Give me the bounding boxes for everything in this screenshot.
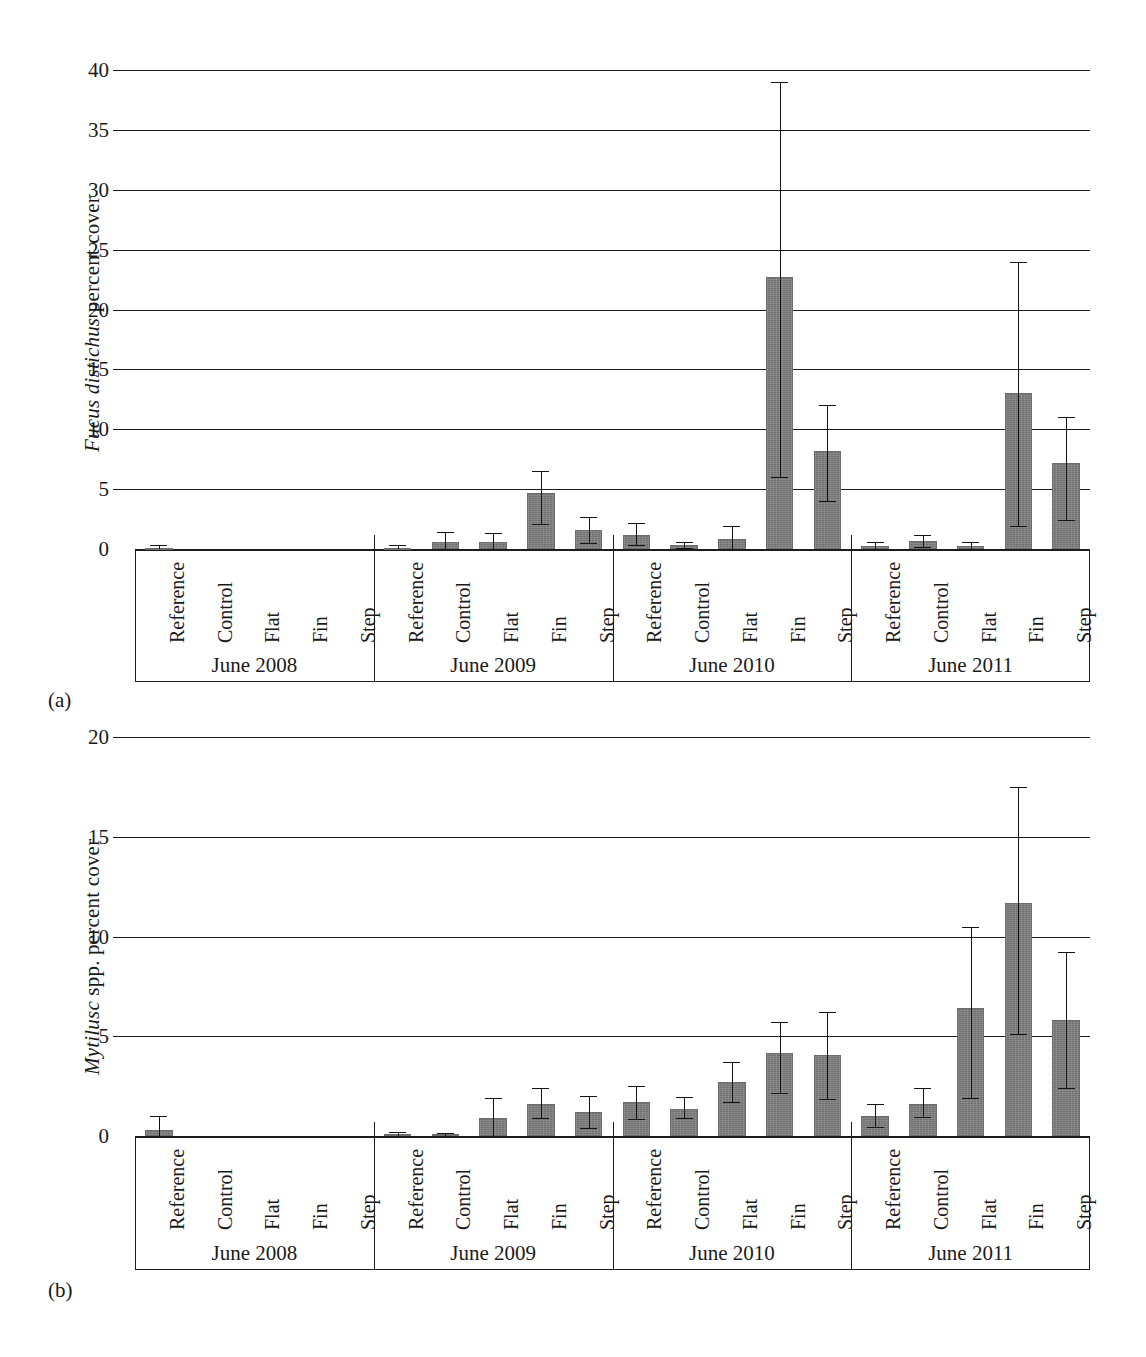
error-bar-cap-lower — [676, 548, 693, 549]
error-bar — [1018, 262, 1019, 527]
category-label: Step — [597, 1194, 617, 1230]
error-bar — [875, 1104, 876, 1127]
error-bar-cap-upper — [962, 542, 979, 543]
category-label: Reference — [167, 562, 187, 643]
error-bar-cap-upper — [867, 1104, 884, 1105]
gridline — [135, 130, 1090, 131]
category-label: Reference — [406, 562, 426, 643]
error-bar-cap-lower — [914, 547, 931, 548]
category-label: Reference — [883, 562, 903, 643]
category-label: Fin — [310, 1203, 330, 1230]
group-label: June 2008 — [135, 655, 374, 676]
group-separator-plot — [851, 1122, 852, 1136]
y-axis-tick-label: 10 — [59, 419, 109, 440]
error-bar-cap-upper — [532, 471, 549, 472]
y-axis-tick-label: 20 — [59, 299, 109, 320]
y-axis-tick-label: 10 — [59, 926, 109, 947]
error-bar — [589, 517, 590, 543]
gridline — [135, 310, 1090, 311]
gridline — [135, 489, 1090, 490]
gridline — [135, 369, 1090, 370]
group-separator-plot — [613, 1122, 614, 1136]
category-label: Reference — [406, 1149, 426, 1230]
category-label: Flat — [262, 1199, 282, 1230]
category-label: Reference — [644, 1149, 664, 1230]
category-label: Fin — [1026, 616, 1046, 643]
error-bar — [1066, 417, 1067, 520]
group-label: June 2010 — [613, 1243, 852, 1264]
error-bar-cap-lower — [914, 1117, 931, 1118]
category-label: Flat — [262, 612, 282, 643]
category-label: Flat — [501, 1199, 521, 1230]
error-bar-cap-upper — [437, 1133, 454, 1134]
gridline — [135, 250, 1090, 251]
gridline — [135, 429, 1090, 430]
category-label: Flat — [740, 612, 760, 643]
error-bar-cap-upper — [485, 533, 502, 534]
category-label: Fin — [1026, 1203, 1046, 1230]
category-label: Fin — [549, 616, 569, 643]
category-label: Step — [835, 1194, 855, 1230]
category-label: Control — [215, 1169, 235, 1230]
category-label: Reference — [883, 1149, 903, 1230]
error-bar-cap-lower — [1010, 1034, 1027, 1035]
category-label: Control — [692, 582, 712, 643]
y-axis-tick-label: 35 — [59, 119, 109, 140]
error-bar-cap-upper — [819, 1012, 836, 1013]
error-bar-cap-lower — [580, 1128, 597, 1129]
y-axis-tickmark — [113, 369, 135, 370]
error-bar — [875, 542, 876, 549]
error-bar-cap-upper — [819, 405, 836, 406]
y-axis-tickmark — [113, 250, 135, 251]
category-label: Fin — [310, 616, 330, 643]
category-label: Flat — [501, 612, 521, 643]
category-label: Step — [358, 1194, 378, 1230]
gridline — [135, 190, 1090, 191]
y-axis-tickmark — [113, 837, 135, 838]
y-axis-tickmark — [113, 130, 135, 131]
y-axis-tickmark — [113, 70, 135, 71]
error-bar-cap-upper — [150, 1116, 167, 1117]
error-bar-cap-lower — [771, 1093, 788, 1094]
error-bar-cap-upper — [485, 1098, 502, 1099]
error-bar-cap-lower — [1058, 520, 1075, 521]
category-label: Flat — [979, 1199, 999, 1230]
group-separator-plot — [613, 535, 614, 549]
error-bar — [541, 471, 542, 524]
category-label: Fin — [549, 1203, 569, 1230]
error-bar-cap-lower — [532, 1118, 549, 1119]
error-bar-cap-upper — [914, 1088, 931, 1089]
error-bar-cap-upper — [532, 1088, 549, 1089]
error-bar — [636, 1086, 637, 1119]
y-axis-tick-label: 15 — [59, 826, 109, 847]
error-bar-cap-upper — [437, 532, 454, 533]
error-bar — [732, 1062, 733, 1102]
error-bar-cap-upper — [676, 1097, 693, 1098]
error-bar — [827, 1012, 828, 1099]
error-bar-cap-lower — [867, 1127, 884, 1128]
error-bar-cap-lower — [771, 477, 788, 478]
error-bar-cap-lower — [962, 1098, 979, 1099]
group-label: June 2011 — [851, 1243, 1090, 1264]
error-bar-cap-upper — [676, 542, 693, 543]
error-bar-cap-upper — [771, 1022, 788, 1023]
category-label: Flat — [979, 612, 999, 643]
error-bar-cap-upper — [150, 545, 167, 546]
category-label: Step — [1074, 1194, 1094, 1230]
error-bar-cap-lower — [1010, 526, 1027, 527]
error-bar-cap-upper — [628, 1086, 645, 1087]
error-bar-cap-upper — [1010, 787, 1027, 788]
category-label: Control — [692, 1169, 712, 1230]
error-bar — [827, 405, 828, 501]
category-label: Step — [1074, 607, 1094, 643]
error-bar-cap-upper — [1058, 417, 1075, 418]
y-axis-tickmark — [113, 190, 135, 191]
error-bar-cap-upper — [914, 535, 931, 536]
error-bar-cap-upper — [771, 82, 788, 83]
y-axis-tickmark — [113, 1036, 135, 1037]
error-bar-cap-lower — [628, 1119, 645, 1120]
y-axis-tick-label: 0 — [59, 539, 109, 560]
error-bar-cap-lower — [628, 545, 645, 546]
error-bar-cap-lower — [676, 1118, 693, 1119]
group-separator-plot — [374, 1122, 375, 1136]
